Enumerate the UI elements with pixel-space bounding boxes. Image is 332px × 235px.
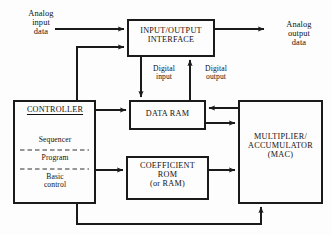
controller-item-basic-control: Basic control bbox=[16, 173, 94, 189]
digital-output-label: Digital output bbox=[194, 65, 238, 81]
controller-item-program: Program bbox=[16, 154, 94, 162]
input-output-interface-label: INPUT/OUTPUT INTERFACE bbox=[130, 27, 212, 45]
data-ram-label: DATA RAM bbox=[131, 110, 204, 119]
analog-output-label: Analog output data bbox=[268, 20, 330, 47]
digital-input-label: Digital input bbox=[144, 65, 184, 81]
line-controller-to-io bbox=[77, 47, 124, 101]
diagram-canvas: Analog input data Analog output data INP… bbox=[0, 0, 332, 235]
controller-item-sequencer: Sequencer bbox=[16, 136, 94, 144]
line-controller-feedback-to-mac bbox=[77, 203, 261, 224]
multiplier-accumulator-label: MULTIPLIER/ ACCUMULATOR (MAC) bbox=[240, 133, 321, 160]
coefficient-rom-label: COEFFICIENT ROM (or RAM) bbox=[128, 162, 207, 189]
analog-input-label: Analog input data bbox=[8, 9, 74, 36]
controller-heading: CONTROLLER bbox=[16, 106, 94, 115]
